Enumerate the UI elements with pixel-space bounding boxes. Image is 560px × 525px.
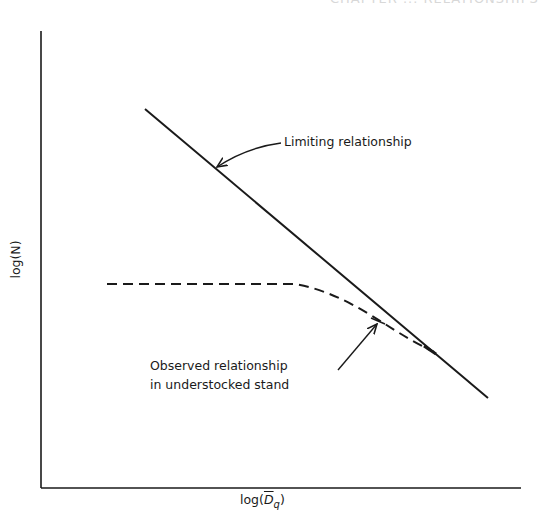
observed-relationship-line: [107, 284, 434, 352]
limiting-relationship-label: Limiting relationship: [284, 132, 412, 151]
observed-label-line-1: Observed relationship: [150, 356, 289, 375]
x-label-variable: D: [264, 492, 274, 507]
axes: [41, 31, 521, 488]
x-label-prefix: log(: [240, 492, 264, 507]
merge-point-mark: [424, 346, 436, 354]
observed-arrow-icon: [338, 324, 377, 370]
limiting-relationship-line: [145, 109, 488, 398]
observed-label-line-2: in understocked stand: [150, 375, 289, 394]
diagram-canvas: [0, 0, 560, 525]
y-axis-label: log(N): [8, 235, 23, 285]
observed-relationship-label: Observed relationship in understocked st…: [150, 356, 289, 394]
limiting-arrow-icon: [217, 143, 281, 167]
x-label-suffix: ): [280, 492, 285, 507]
x-axis-label: log(Dq): [240, 492, 285, 510]
